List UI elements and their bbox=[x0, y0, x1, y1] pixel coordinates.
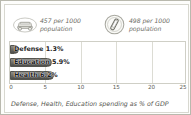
x-tick-10: 10 bbox=[77, 84, 84, 90]
x-tick-25: 25 bbox=[179, 84, 186, 90]
bar-label-education: Education 5.9% bbox=[14, 57, 70, 68]
chart-plot-area: Defense 1.3% Education 5.9% Health 6.2% bbox=[9, 41, 186, 84]
stat-cars-text: 457 per 1000 population bbox=[37, 17, 81, 32]
stat-cars: 457 per 1000 population bbox=[9, 9, 101, 40]
bar-label-health: Health 6.2% bbox=[14, 70, 58, 81]
stat-phones-text: 498 per 1000 population bbox=[126, 17, 170, 32]
bar-label-defense: Defense 1.3% bbox=[14, 44, 63, 55]
spending-bar-chart: Defense 1.3% Education 5.9% Health 6.2% … bbox=[9, 41, 186, 93]
stats-row: 457 per 1000 population 498 per 1000 pop… bbox=[9, 9, 186, 40]
mobile-phone-circle-icon bbox=[102, 14, 126, 36]
bar-rows: Defense 1.3% Education 5.9% Health 6.2% bbox=[10, 42, 185, 83]
x-axis: 0 5 10 15 20 25 bbox=[9, 84, 186, 93]
chart-caption: Defense, Health, Education spending as %… bbox=[11, 100, 169, 107]
car-icon bbox=[13, 14, 37, 36]
x-tick-0: 0 bbox=[9, 84, 13, 90]
x-tick-5: 5 bbox=[44, 84, 48, 90]
bar-row-defense: Defense 1.3% bbox=[10, 44, 185, 55]
infographic-widget: 457 per 1000 population 498 per 1000 pop… bbox=[0, 0, 191, 115]
bar-row-health: Health 6.2% bbox=[10, 70, 185, 81]
x-tick-20: 20 bbox=[148, 84, 155, 90]
inner-frame: 457 per 1000 population 498 per 1000 pop… bbox=[4, 4, 189, 113]
bar-row-education: Education 5.9% bbox=[10, 57, 185, 68]
x-tick-15: 15 bbox=[113, 84, 120, 90]
stat-phones: 498 per 1000 population bbox=[101, 9, 186, 40]
